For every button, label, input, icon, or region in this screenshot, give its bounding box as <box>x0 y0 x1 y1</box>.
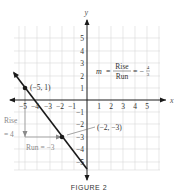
rise-label-line2: = 4 <box>4 130 14 139</box>
slope-formula: m = Rise Run = − 4 3 <box>96 62 150 81</box>
svg-text:2: 2 <box>80 72 84 81</box>
svg-text:−3: −3 <box>76 133 84 142</box>
svg-text:−2: −2 <box>56 102 64 111</box>
svg-text:5: 5 <box>80 34 84 43</box>
svg-text:3: 3 <box>80 59 84 68</box>
svg-text:4: 4 <box>80 47 84 56</box>
svg-text:m: m <box>96 67 102 76</box>
figure-caption: FIGURE 2 <box>0 184 178 191</box>
svg-text:= −: = − <box>133 67 145 76</box>
svg-text:−4: −4 <box>31 102 39 111</box>
point-neg2-neg3 <box>60 135 65 140</box>
x-tick-labels: −5 −4 −3 −2 −1 1 2 3 4 5 <box>19 102 149 111</box>
run-label: Run = −3 <box>26 143 55 152</box>
svg-text:−3: −3 <box>44 102 52 111</box>
svg-text:Rise: Rise <box>115 62 129 71</box>
svg-text:−5: −5 <box>19 102 27 111</box>
y-axis-label: y <box>84 8 89 17</box>
rise-run-guides <box>23 88 63 140</box>
coordinate-plane: y x 5 4 3 2 1 −1 −2 −3 −4 −5 −5 −4 −3 −2… <box>0 0 178 195</box>
svg-text:−2: −2 <box>76 120 84 129</box>
svg-text:−1: −1 <box>76 108 84 117</box>
point-label-neg5-1: (−5, 1) <box>30 83 51 92</box>
svg-text:Run: Run <box>116 72 129 81</box>
slope-figure: y x 5 4 3 2 1 −1 −2 −3 −4 −5 −5 −4 −3 −2… <box>0 0 178 195</box>
svg-text:=: = <box>106 67 111 76</box>
svg-text:5: 5 <box>145 102 149 111</box>
svg-text:1: 1 <box>80 84 84 93</box>
svg-text:−4: −4 <box>76 145 84 154</box>
x-axis-label: x <box>169 96 174 105</box>
svg-text:2: 2 <box>109 102 113 111</box>
svg-text:4: 4 <box>133 102 137 111</box>
svg-text:3: 3 <box>121 102 125 111</box>
point-label-neg2-neg3: (−2, −3) <box>97 123 122 132</box>
svg-text:4: 4 <box>147 65 150 70</box>
svg-text:−1: −1 <box>68 102 76 111</box>
svg-text:1: 1 <box>97 102 101 111</box>
rise-label-line1: Rise <box>4 116 18 125</box>
svg-text:−5: −5 <box>76 158 84 167</box>
point-neg5-1 <box>23 86 28 91</box>
